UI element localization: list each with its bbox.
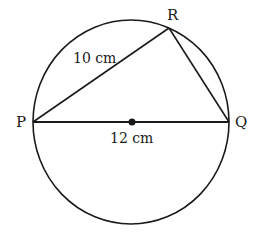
edge-rq — [169, 28, 229, 122]
center-dot — [129, 119, 136, 126]
circle-triangle-diagram: P Q R 10 cm 12 cm — [0, 0, 255, 236]
vertex-label-q: Q — [235, 113, 247, 131]
vertex-label-r: R — [167, 6, 179, 24]
diagram-canvas: P Q R 10 cm 12 cm — [0, 0, 255, 236]
edge-pr — [33, 28, 169, 122]
length-label-pq: 12 cm — [110, 130, 153, 146]
vertex-label-p: P — [16, 113, 26, 131]
length-label-pr: 10 cm — [73, 50, 116, 66]
